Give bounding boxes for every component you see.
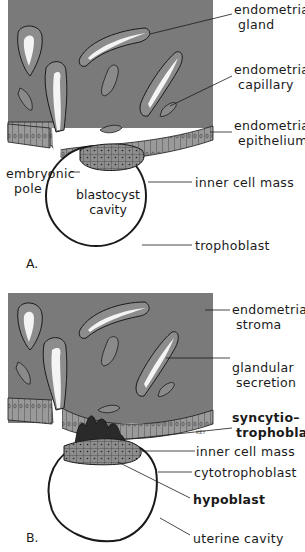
label-trophoblast: trophoblast [195, 238, 270, 253]
label-endometrial-epithelium: endometrial epithelium [234, 118, 305, 148]
label-line: blastocyst [68, 187, 148, 202]
label-endometrial-gland: endometrial gland [234, 2, 305, 32]
label-embryonic-pole: embryonic pole [6, 166, 75, 196]
label-hypoblast: hypoblast [193, 492, 265, 507]
panel-b-endometrium: KEY [8, 293, 213, 448]
label-line: syncytio– [232, 410, 305, 425]
label-endometrial-capillary: endometrial capillary [234, 62, 305, 92]
label-line: endometrial [234, 118, 305, 133]
label-line: secretion [232, 375, 296, 390]
label-cytotrophoblast: cytotrophoblast [194, 465, 297, 480]
panel-letter-a: A. [26, 256, 38, 271]
label-line: embryonic [6, 166, 75, 181]
label-glandular-secretion: glandular secretion [232, 360, 296, 390]
panel-letter-b: B. [26, 530, 39, 545]
label-inner-cell-mass-b: inner cell mass [196, 444, 295, 459]
label-uterine-cavity: uterine cavity [193, 531, 284, 546]
label-line: trophoblast [232, 425, 305, 440]
label-blastocyst-cavity: blastocyst cavity [68, 187, 148, 217]
label-line: stroma [232, 317, 305, 332]
label-line: endometrial [234, 62, 305, 77]
label-line: endometrial [232, 302, 305, 317]
label-inner-cell-mass-a: inner cell mass [195, 175, 294, 190]
label-line: epithelium [234, 133, 305, 148]
panel-a-endometrium [8, 0, 213, 162]
label-line: pole [6, 181, 75, 196]
label-line: cavity [68, 202, 148, 217]
label-line: gland [234, 17, 305, 32]
label-line: endometrial [234, 2, 305, 17]
label-line: capillary [234, 77, 305, 92]
label-syncytiotrophoblast: syncytio– trophoblast [232, 410, 305, 440]
blastocyst-b [49, 439, 157, 542]
label-line: glandular [232, 360, 296, 375]
label-endometrial-stroma: endometrial stroma [232, 302, 305, 332]
